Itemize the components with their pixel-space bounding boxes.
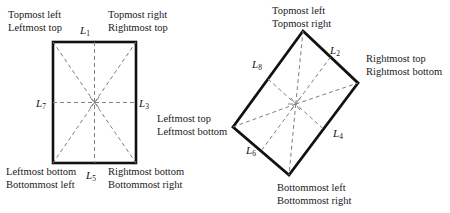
left-top-right-annotation: Topmost right Rightmost top <box>108 9 168 34</box>
annotation-line-1: Rightmost top <box>366 53 442 66</box>
annotation-line-1: Rightmost bottom <box>108 166 184 179</box>
annotation-line-1: Topmost right <box>108 9 168 22</box>
edge-label-L3: L3 <box>139 97 149 109</box>
annotation-line-1: Topmost left <box>8 9 62 22</box>
annotation-line-2: Rightmost bottom <box>366 66 442 79</box>
annotation-line-2: Bottommost right <box>277 195 351 208</box>
left-bottom-right-annotation: Rightmost bottom Bottommost right <box>108 166 184 191</box>
annotation-line-1: Leftmost bottom <box>6 166 76 179</box>
rotated-bottom-annotation: Bottommost left Bottommost right <box>277 182 351 207</box>
edge-label-L5: L5 <box>86 169 96 181</box>
annotation-line-2: Rightmost top <box>108 22 168 35</box>
edge-label-L6: L6 <box>246 144 256 156</box>
annotation-line-1: Leftmost top <box>157 113 227 126</box>
annotation-line-2: Topmost right <box>272 18 331 31</box>
annotation-line-2: Bottommost left <box>6 179 76 192</box>
edge-label-L1: L1 <box>80 24 90 36</box>
annotation-line-2: Leftmost bottom <box>157 126 227 139</box>
edge-label-L4: L4 <box>333 127 343 139</box>
rotated-top-annotation: Topmost left Topmost right <box>272 5 331 30</box>
left-bottom-left-annotation: Leftmost bottom Bottommost left <box>6 166 76 191</box>
edge-label-L8: L8 <box>252 58 262 70</box>
rotated-right-annotation: Rightmost top Rightmost bottom <box>366 53 442 78</box>
annotation-line-1: Bottommost left <box>277 182 351 195</box>
left-top-left-annotation: Topmost left Leftmost top <box>8 9 62 34</box>
annotation-line-2: Bottommost right <box>108 179 184 192</box>
figure-canvas: L1 L3 L5 L7 L2 L4 L6 L8 Topmost left Lef… <box>0 0 450 213</box>
rotated-left-annotation: Leftmost top Leftmost bottom <box>157 113 227 138</box>
annotation-line-2: Leftmost top <box>8 22 62 35</box>
edge-label-L7: L7 <box>36 97 46 109</box>
annotation-line-1: Topmost left <box>272 5 331 18</box>
edge-label-L2: L2 <box>330 44 340 56</box>
